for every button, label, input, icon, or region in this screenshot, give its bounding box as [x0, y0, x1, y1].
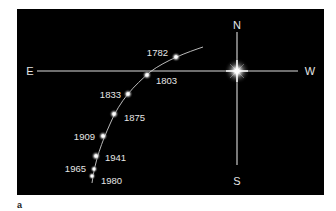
path-star-icon-1909: [98, 131, 108, 141]
year-label-1941: 1941: [105, 152, 126, 163]
compass-south-label: S: [233, 175, 240, 187]
path-star-icon-1980: [88, 172, 96, 180]
figure: N S E W: [0, 0, 336, 211]
compass-east-label: E: [26, 65, 33, 77]
year-label-1833: 1833: [100, 89, 121, 100]
path-star-icon-1803: [142, 70, 152, 80]
compass-north-label: N: [233, 19, 241, 31]
path-star-icon-1941: [91, 151, 101, 161]
path-star-icon-1833: [123, 89, 133, 99]
year-label-1803: 1803: [156, 75, 177, 86]
pole-star-icon: [224, 58, 250, 84]
diagram-svg: N S E W: [0, 0, 336, 211]
compass-west-label: W: [305, 65, 316, 77]
path-star-icon-1782: [171, 52, 181, 62]
path-star-icon-1875: [109, 109, 119, 119]
year-label-1965: 1965: [65, 163, 86, 174]
year-label-1909: 1909: [74, 131, 95, 142]
path-star-icon-1965: [90, 165, 98, 173]
year-label-1980: 1980: [101, 175, 122, 186]
year-label-1875: 1875: [124, 112, 145, 123]
year-label-1782: 1782: [147, 47, 168, 58]
panel-label: a: [17, 201, 22, 210]
